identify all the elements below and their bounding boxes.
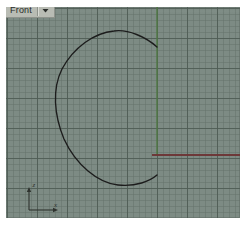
front-viewport[interactable]: Front z x	[6, 7, 240, 218]
viewport-title-dropdown[interactable]: Front	[6, 7, 55, 18]
geometry-layer	[6, 7, 240, 218]
free-form-closed-curve[interactable]	[55, 31, 157, 186]
viewport-title-label: Front	[10, 7, 37, 17]
chevron-down-icon[interactable]	[39, 7, 52, 17]
app-root: Front z x	[0, 0, 250, 228]
